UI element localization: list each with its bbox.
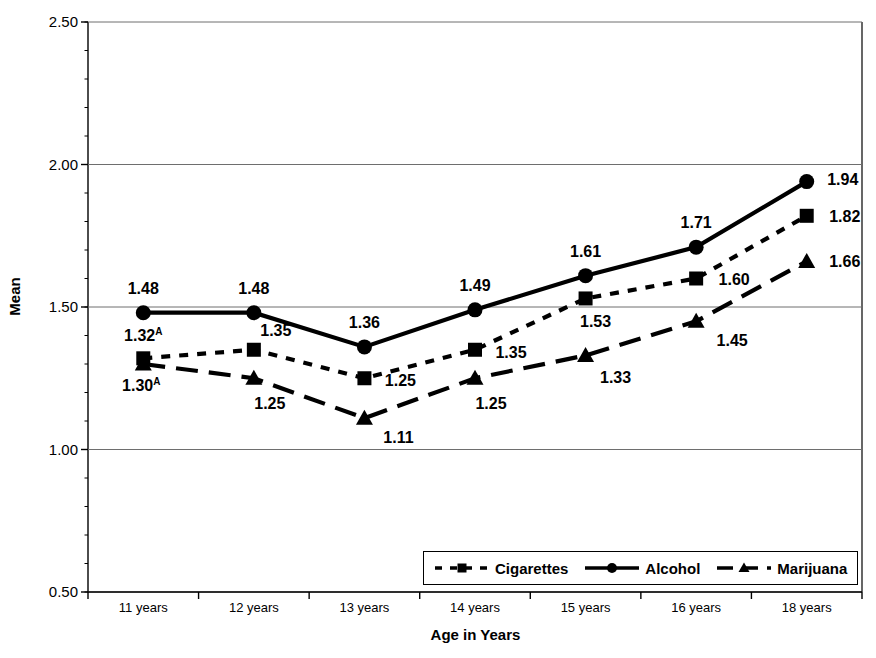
y-tick-label: 2.00 xyxy=(16,156,78,173)
x-tick-label: 18 years xyxy=(782,600,832,615)
marker-circle-alcohol-4 xyxy=(578,268,593,283)
x-tick-label: 15 years xyxy=(561,600,611,615)
y-tick-label: 2.50 xyxy=(16,13,78,30)
data-label-cigarettes-4: 1.53 xyxy=(580,314,611,330)
y-tick-label: 1.00 xyxy=(16,441,78,458)
chart-legend: CigarettesAlcoholMarijuana xyxy=(423,551,858,585)
y-tick-label: 0.50 xyxy=(16,583,78,600)
legend-item-cigarettes: Cigarettes xyxy=(434,560,568,577)
x-tick-label: 12 years xyxy=(229,600,279,615)
label-superscript: A xyxy=(155,326,162,337)
data-label-marijuana-0: 1.30A xyxy=(122,378,160,394)
data-label-alcohol-4: 1.61 xyxy=(570,244,601,260)
marker-triangle-marijuana-3 xyxy=(467,370,484,385)
series-line-alcohol xyxy=(143,182,806,347)
y-tick-label: 1.50 xyxy=(16,298,78,315)
marker-square-cigarettes-4 xyxy=(579,291,593,305)
legend-item-marijuana: Marijuana xyxy=(716,560,847,577)
data-label-alcohol-6: 1.94 xyxy=(827,172,858,188)
x-axis-title: Age in Years xyxy=(88,626,863,643)
label-superscript: A xyxy=(153,376,160,387)
y-axis-tick-labels: 0.501.001.502.002.50 xyxy=(16,0,78,658)
marker-square-cigarettes-6 xyxy=(800,209,814,223)
data-label-alcohol-3: 1.49 xyxy=(459,278,490,294)
legend-swatch-circle xyxy=(584,561,640,575)
data-label-cigarettes-1: 1.35 xyxy=(260,323,291,339)
marker-circle-alcohol-6 xyxy=(799,174,814,189)
data-label-marijuana-1: 1.25 xyxy=(254,396,285,412)
data-label-marijuana-3: 1.25 xyxy=(475,396,506,412)
data-label-marijuana-6: 1.66 xyxy=(829,254,860,270)
x-tick-label: 11 years xyxy=(119,600,168,615)
legend-swatch-triangle xyxy=(716,561,772,575)
marker-square-cigarettes-2 xyxy=(357,371,371,385)
marker-circle-alcohol-1 xyxy=(246,305,261,320)
data-label-cigarettes-0: 1.32A xyxy=(124,328,162,344)
marker-square-cigarettes-1 xyxy=(247,343,261,357)
data-label-cigarettes-2: 1.25 xyxy=(385,373,416,389)
data-label-alcohol-5: 1.71 xyxy=(681,215,712,231)
marker-circle-alcohol-0 xyxy=(136,305,151,320)
marker-square-cigarettes-3 xyxy=(468,343,482,357)
legend-label: Marijuana xyxy=(777,560,847,577)
marker-triangle-marijuana-6 xyxy=(798,253,815,268)
data-label-alcohol-2: 1.36 xyxy=(349,315,380,331)
marker-circle-alcohol-2 xyxy=(357,339,372,354)
data-label-marijuana-2: 1.11 xyxy=(383,430,413,446)
marker-square-cigarettes-5 xyxy=(689,272,703,286)
data-label-cigarettes-6: 1.82 xyxy=(829,209,860,225)
legend-swatch-square xyxy=(434,561,490,575)
x-tick-label: 16 years xyxy=(671,600,721,615)
x-tick-label: 13 years xyxy=(339,600,389,615)
data-label-marijuana-4: 1.33 xyxy=(600,370,631,386)
line-chart: Mean 0.501.001.502.002.50 11 years12 yea… xyxy=(0,0,876,658)
data-label-marijuana-5: 1.45 xyxy=(717,333,748,349)
legend-label: Alcohol xyxy=(645,560,700,577)
data-label-alcohol-0: 1.48 xyxy=(128,281,159,297)
x-tick-label: 14 years xyxy=(450,600,500,615)
data-label-cigarettes-5: 1.60 xyxy=(719,272,750,288)
data-label-alcohol-1: 1.48 xyxy=(238,281,269,297)
legend-item-alcohol: Alcohol xyxy=(584,560,700,577)
marker-circle-alcohol-5 xyxy=(689,240,704,255)
data-label-cigarettes-3: 1.35 xyxy=(495,345,526,361)
legend-label: Cigarettes xyxy=(495,560,568,577)
marker-circle-alcohol-3 xyxy=(468,302,483,317)
